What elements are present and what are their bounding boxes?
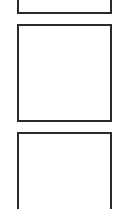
empty-frame-bottom <box>17 132 112 209</box>
empty-frame-middle <box>17 24 112 122</box>
empty-frame-top <box>17 0 112 14</box>
